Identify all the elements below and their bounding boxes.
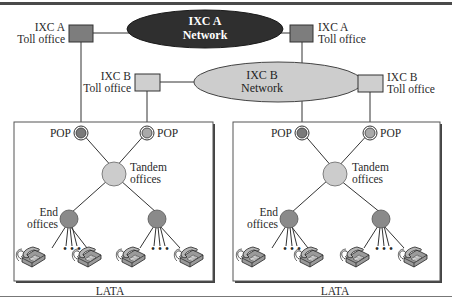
pop-label: POP <box>157 127 178 139</box>
ixc-a-toll-left-label-1: IXC A <box>35 21 66 33</box>
pop-right-2: POP <box>363 126 401 140</box>
pop-left-2: POP <box>140 126 178 140</box>
ixc-a-network-label-2: Network <box>183 28 228 42</box>
telephone-network-diagram: IXC A Network IXC B Network IXC A Toll o… <box>0 0 457 299</box>
end-office-label-2: offices <box>247 218 279 230</box>
end-office-label-1: End <box>259 206 278 218</box>
pop-right-1: POP <box>271 126 309 140</box>
lata-label: LATA <box>321 285 350 297</box>
end-office-right-2 <box>372 210 390 228</box>
pop-label: POP <box>50 127 71 139</box>
ixc-a-toll-right-label-2: Toll office <box>318 33 366 45</box>
lata-left: POP POP Tandem offices End offices • • •… <box>14 122 215 297</box>
tandem-label-1: Tandem <box>130 161 167 173</box>
ellipsis: • • • <box>375 243 393 255</box>
ixc-b-network-label-1: IXC B <box>246 68 278 82</box>
ixc-b-toll-left-label-1: IXC B <box>101 70 132 82</box>
bottom-rule <box>0 296 452 297</box>
ixc-a-toll-left-label-2: Toll office <box>17 33 65 45</box>
ixc-a-toll-office-right: IXC A Toll office <box>290 21 366 45</box>
pop-label: POP <box>380 127 401 139</box>
tandem-office-right: Tandem offices <box>323 161 389 186</box>
pop-left-1: POP <box>50 126 88 140</box>
ellipsis: • • • <box>63 243 81 255</box>
ixc-a-toll-office-left: IXC A Toll office <box>17 21 93 45</box>
pop-label: POP <box>271 127 292 139</box>
ixc-b-toll-right-label-1: IXC B <box>387 71 418 83</box>
ixc-b-toll-left-label-2: Toll office <box>83 82 131 94</box>
tandem-label-1: Tandem <box>352 161 389 173</box>
lata-right: POP POP Tandem offices End offices • • •… <box>233 122 442 297</box>
ixc-a-network: IXC A Network <box>127 10 283 48</box>
ellipsis: • • • <box>151 243 169 255</box>
tandem-label-2: offices <box>130 173 162 185</box>
ixc-b-toll-office-right: IXC B Toll office <box>358 71 435 95</box>
tandem-office-left: Tandem offices <box>102 161 167 186</box>
ixc-b-toll-office-left: IXC B Toll office <box>83 70 160 94</box>
tandem-label-2: offices <box>352 173 384 185</box>
end-office-label-2: offices <box>27 218 59 230</box>
ixc-b-network: IXC B Network <box>194 62 362 102</box>
top-rule <box>0 2 452 5</box>
ixc-a-network-label-1: IXC A <box>188 14 221 28</box>
ixc-b-toll-right-label-2: Toll office <box>387 83 435 95</box>
lata-label: LATA <box>96 285 125 297</box>
end-office-label-1: End <box>39 206 58 218</box>
end-office-left-2 <box>148 210 166 228</box>
ixc-a-toll-right-label-1: IXC A <box>318 21 349 33</box>
ixc-b-network-label-2: Network <box>241 81 283 95</box>
